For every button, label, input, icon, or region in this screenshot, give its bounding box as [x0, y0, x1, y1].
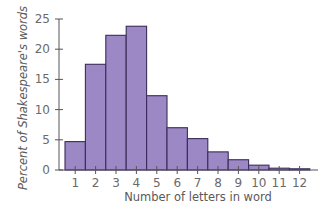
y-tick-label: 0: [42, 163, 50, 177]
x-axis-title: Number of letters in word: [124, 190, 272, 204]
y-tick-label: 20: [35, 42, 50, 56]
y-tick-label: 10: [35, 103, 50, 117]
x-tick-label: 4: [133, 176, 141, 190]
histogram-chart: 0510152025 123456789101112 Percent of Sh…: [0, 0, 333, 217]
x-tick-label: 10: [251, 176, 266, 190]
x-axis: 123456789101112: [59, 166, 318, 190]
y-tick-label: 5: [42, 133, 50, 147]
x-tick-label: 12: [292, 176, 307, 190]
bar-7: [187, 139, 207, 170]
y-tick-label: 15: [35, 72, 50, 86]
x-tick-label: 5: [153, 176, 161, 190]
x-tick-label: 6: [173, 176, 181, 190]
x-tick-label: 8: [214, 176, 222, 190]
bar-4: [126, 26, 146, 170]
x-tick-label: 3: [112, 176, 120, 190]
x-tick-label: 7: [194, 176, 202, 190]
bar-3: [106, 35, 126, 170]
bar-1: [65, 142, 85, 170]
x-tick-label: 1: [71, 176, 79, 190]
bar-5: [147, 96, 167, 170]
bar-6: [167, 128, 187, 170]
x-tick-label: 11: [272, 176, 287, 190]
y-axis: 0510152025: [35, 12, 63, 177]
bar-2: [85, 64, 105, 170]
y-axis-title: Percent of Shakespeare's words: [16, 6, 30, 190]
y-tick-label: 25: [35, 12, 50, 26]
bars-group: [65, 26, 310, 170]
x-tick-label: 9: [235, 176, 243, 190]
x-tick-label: 2: [92, 176, 100, 190]
